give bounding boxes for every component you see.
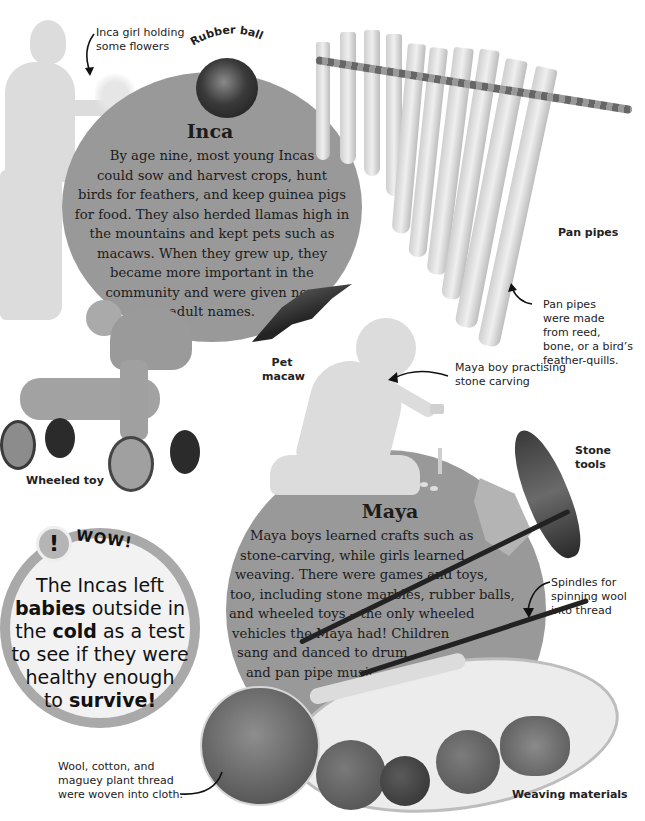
arrow-left-icon	[384, 366, 450, 386]
inca-girl-label: Inca girl holding some flowers	[96, 26, 184, 54]
curved-arrow-icon	[80, 32, 100, 80]
pan-pipes-label: Pan pipes	[558, 226, 618, 240]
rubber-ball-label: Rubber ball	[188, 16, 278, 52]
wow-fact-text: The Incas left babies outside in the col…	[0, 574, 200, 712]
exclamation-icon: !	[36, 526, 72, 562]
maya-boy-label: Maya boy practising stone carving	[455, 361, 566, 389]
pet-macaw-label: Pet macaw	[262, 356, 302, 384]
stone-tools-label: Stone tools	[575, 444, 611, 472]
spindles-label: Spindles for spinning wool into thread	[551, 576, 627, 618]
svg-text:Rubber ball: Rubber ball	[188, 23, 265, 48]
wool-note: Wool, cotton, and maguey plant thread we…	[58, 760, 183, 802]
curved-line-icon	[180, 770, 226, 800]
weaving-materials-label: Weaving materials	[512, 788, 628, 802]
pan-pipes-note: Pan pipes were made from reed, bone, or …	[543, 298, 633, 368]
curved-arrow-icon	[506, 282, 536, 308]
rubber-ball-image	[196, 58, 258, 118]
wheeled-toy-label: Wheeled toy	[26, 474, 104, 488]
inca-heading: Inca	[80, 120, 340, 142]
maya-heading: Maya	[290, 500, 490, 522]
